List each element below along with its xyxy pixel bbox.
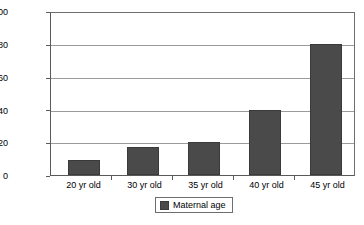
y-tick-label-60: 60 <box>0 74 8 83</box>
x-tick-label-35-yr-old: 35 yr old <box>175 180 236 191</box>
legend-swatch-maternal-age <box>160 201 169 210</box>
x-tick-label-30-yr-old: 30 yr old <box>114 180 175 191</box>
bar-chart-figure: Rate of miscarriage (% of pregnancies) 1… <box>0 0 364 225</box>
bar-40-yr-old <box>249 110 281 175</box>
plot-area <box>50 12 355 176</box>
y-tick-label-80: 80 <box>0 41 8 50</box>
bar-35-yr-old <box>188 142 220 175</box>
bars-layer <box>51 13 354 175</box>
x-tick-label-40-yr-old: 40 yr old <box>236 180 297 191</box>
x-tick-label-20-yr-old: 20 yr old <box>53 180 114 191</box>
bar-30-yr-old <box>127 147 159 175</box>
y-tick-label-0: 0 <box>0 172 8 181</box>
bar-45-yr-old <box>310 44 342 175</box>
plot-inner <box>51 13 354 175</box>
bar-20-yr-old <box>68 160 100 175</box>
y-tick-label-40: 40 <box>0 107 8 116</box>
y-tick-label-20: 20 <box>0 139 8 148</box>
x-tick-label-45-yr-old: 45 yr old <box>297 180 358 191</box>
y-tick-label-100: 100 <box>0 8 8 17</box>
y-tick-mark-0 <box>46 176 50 177</box>
legend: Maternal age <box>155 197 233 213</box>
y-axis-title: Rate of miscarriage (% of pregnancies) <box>0 0 26 38</box>
legend-label-maternal-age: Maternal age <box>173 200 226 210</box>
